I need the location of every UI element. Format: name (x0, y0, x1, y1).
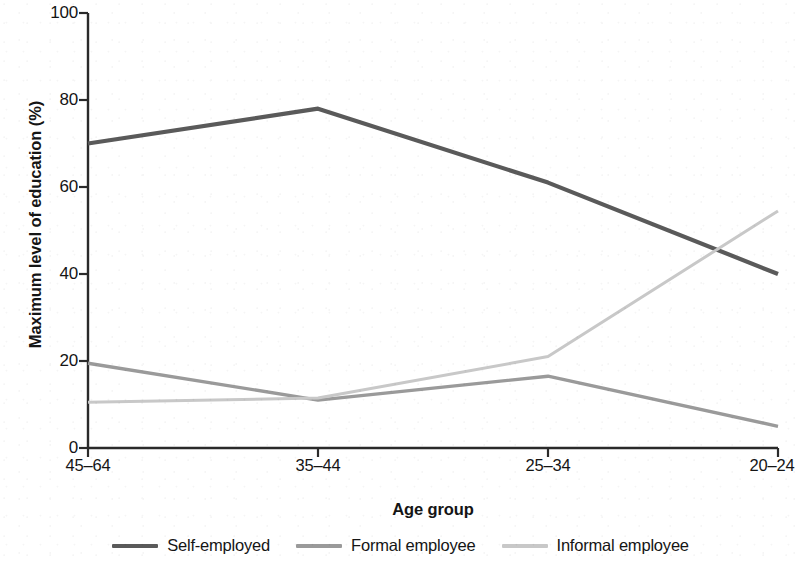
x-tick-label: 35–44 (296, 456, 341, 475)
legend-swatch-icon (296, 544, 342, 548)
x-tick-label: 20–24 (750, 456, 795, 475)
chart-legend: Self-employed Formal employee Informal e… (0, 536, 801, 555)
x-tick-label: 25–34 (526, 456, 571, 475)
x-axis-ticks (88, 448, 778, 457)
plot-area (0, 0, 801, 570)
legend-label: Formal employee (351, 536, 475, 555)
legend-swatch-icon (502, 544, 548, 548)
series-line-formal-employee (88, 363, 778, 426)
series-line-self-employed (88, 109, 778, 274)
legend-item-formal-employee: Formal employee (296, 536, 475, 555)
chart-figure: Maximum level of education (%) 100 80 60… (0, 0, 801, 570)
legend-swatch-icon (112, 544, 158, 548)
legend-item-self-employed: Self-employed (112, 536, 270, 555)
data-series-layer (88, 109, 778, 427)
x-tick-label: 45–64 (66, 456, 111, 475)
legend-label: Self-employed (167, 536, 270, 555)
legend-item-informal-employee: Informal employee (502, 536, 689, 555)
y-axis-ticks (79, 13, 88, 448)
series-line-informal-employee (88, 211, 778, 402)
x-axis-title: Age group (88, 500, 778, 519)
legend-label: Informal employee (557, 536, 689, 555)
